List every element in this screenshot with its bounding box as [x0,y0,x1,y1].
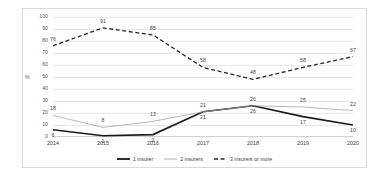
data-label: 10 [350,128,356,133]
data-label: 18 [50,107,56,112]
y-axis-tick: 0 [45,134,48,139]
y-axis-tick: 100 [39,14,48,19]
series-line-3 [53,28,353,80]
y-axis-tick: 50 [42,74,48,79]
data-label: 8 [102,119,105,124]
data-label: 91 [100,19,106,24]
data-label: 6 [52,133,55,138]
data-label: 13 [150,113,156,118]
legend-label: 3 insurers or more [230,157,272,162]
data-label: 17 [300,120,306,125]
data-label: 26 [250,109,256,114]
x-axis-tick: 2020 [347,141,359,146]
data-label: 26 [250,97,256,102]
data-label: 48 [250,71,256,76]
x-axis-tick: 2018 [247,141,259,146]
y-axis-tick: 70 [42,50,48,55]
data-label: 22 [350,102,356,107]
data-label: 21 [200,115,206,120]
x-axis-tick: 2015 [97,141,109,146]
line-chart: 0102030405060708090100 % 612212617101881… [22,8,367,168]
series-line-1 [53,106,353,136]
data-label: 67 [350,48,356,53]
chart-legend: 1 insurer2 insurers3 insurers or more [23,157,366,162]
legend-swatch-icon [214,157,227,161]
legend-item-2[interactable]: 2 insurers [164,157,203,162]
data-label: 58 [300,59,306,64]
data-label: 58 [200,59,206,64]
data-label: 21 [200,103,206,108]
y-axis-title: % [25,74,30,80]
y-axis-tick: 10 [42,122,48,127]
data-label: 76 [50,37,56,42]
y-axis-tick: 40 [42,86,48,91]
y-axis-tick: 80 [42,38,48,43]
legend-item-1[interactable]: 1 insurer [117,157,153,162]
y-axis-tick: 30 [42,98,48,103]
legend-label: 1 insurer [133,157,153,162]
y-axis-tick: 60 [42,62,48,67]
plot-area: 61221261710188132126252276918558485867 [53,17,353,137]
x-axis-tick: 2014 [47,141,59,146]
legend-item-3[interactable]: 3 insurers or more [214,157,272,162]
x-axis-tick: 2017 [197,141,209,146]
y-axis-tick: 90 [42,26,48,31]
y-axis-tick: 20 [42,110,48,115]
data-label: 25 [300,98,306,103]
legend-swatch-icon [164,157,177,161]
legend-swatch-icon [117,157,130,161]
x-axis: 2014201520162017201820192020 [53,141,353,151]
data-label: 85 [150,26,156,31]
legend-label: 2 insurers [180,157,203,162]
x-axis-tick: 2016 [147,141,159,146]
x-axis-tick: 2019 [297,141,309,146]
